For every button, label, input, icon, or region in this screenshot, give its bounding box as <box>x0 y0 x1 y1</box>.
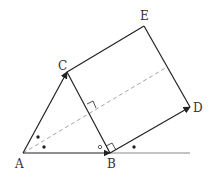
angle-dot-a-lower <box>42 145 45 148</box>
right-angle-mark-cb <box>87 101 96 108</box>
geometry-diagram: A B C D E <box>0 0 211 178</box>
diagram-svg: A B C D E <box>0 0 211 178</box>
angle-dot-b-right <box>132 145 135 148</box>
label-c: C <box>58 59 67 73</box>
vector-ac <box>23 72 67 153</box>
segment-ed <box>144 26 190 107</box>
vector-bd <box>110 107 190 153</box>
segment-ce <box>67 26 144 72</box>
dashed-line <box>23 67 167 153</box>
label-d: D <box>193 101 203 115</box>
label-b: B <box>107 157 116 171</box>
label-e: E <box>140 9 149 23</box>
angle-circle-b <box>98 145 101 148</box>
label-a: A <box>14 157 24 171</box>
segment-cb <box>67 72 110 153</box>
angle-dot-a-upper <box>36 135 39 138</box>
